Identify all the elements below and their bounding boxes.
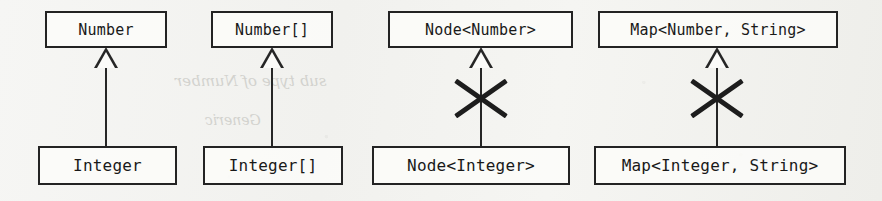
generalization-arrowhead-fill-3 — [472, 52, 490, 68]
page-bleed-through-text-1: sub type of Number — [175, 72, 327, 90]
class-box-supertype-3: Node<Number> — [388, 11, 573, 48]
generalization-line-3 — [480, 68, 482, 146]
class-box-supertype-1: Number — [45, 11, 167, 48]
generalization-arrowhead-fill-1 — [97, 52, 115, 68]
generalization-line-2 — [271, 68, 273, 146]
class-box-subtype-2: Integer[] — [203, 146, 343, 185]
uml-generalization-diagram: sub type of Number Generic Number Intege… — [0, 0, 882, 201]
generalization-line-4 — [716, 68, 718, 146]
generalization-arrowhead-fill-4 — [708, 52, 726, 68]
class-box-supertype-4: Map<Number, String> — [598, 11, 838, 48]
generalization-arrowhead-fill-2 — [263, 52, 281, 68]
class-box-subtype-4: Map<Integer, String> — [594, 146, 846, 185]
class-box-subtype-1: Integer — [38, 146, 177, 185]
generalization-line-1 — [105, 68, 107, 146]
page-bleed-through-text-2: Generic — [205, 112, 261, 128]
class-box-subtype-3: Node<Integer> — [372, 146, 570, 185]
class-box-supertype-2: Number[] — [211, 11, 333, 48]
